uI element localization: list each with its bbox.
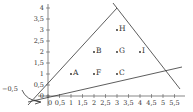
point-A (70, 73, 72, 75)
svg-text:H: H (119, 24, 126, 33)
svg-text:5,5: 5,5 (169, 99, 179, 107)
base-line (28, 67, 182, 102)
coordinate-diagram: 0 0,5 1 1,5 2 2,5 3 3,5 4 −0,5 0 0,5 1 1… (0, 0, 193, 112)
points (70, 29, 141, 75)
point-F (93, 73, 95, 75)
svg-text:3: 3 (115, 99, 119, 107)
svg-text:I: I (142, 46, 145, 55)
svg-text:F: F (96, 68, 101, 77)
svg-text:1,5: 1,5 (34, 59, 44, 67)
svg-text:2,5: 2,5 (100, 99, 110, 107)
svg-text:B: B (96, 46, 102, 55)
svg-text:0,5: 0,5 (34, 81, 44, 89)
point-I (139, 51, 141, 53)
triangle (22, 3, 182, 105)
neg-label: −0,5 (2, 85, 18, 93)
svg-text:3: 3 (40, 26, 44, 34)
svg-text:3,5: 3,5 (123, 99, 133, 107)
point-B (93, 51, 95, 53)
svg-text:C: C (119, 68, 125, 77)
svg-text:1,5: 1,5 (77, 99, 87, 107)
svg-text:4: 4 (138, 99, 142, 107)
svg-text:0,5: 0,5 (55, 99, 65, 107)
svg-text:4,5: 4,5 (146, 99, 156, 107)
svg-text:0: 0 (48, 99, 52, 107)
y-tick-labels: 0 0,5 1 1,5 2 2,5 3 3,5 4 −0,5 (2, 4, 44, 100)
svg-text:4: 4 (40, 4, 44, 12)
point-C (116, 73, 118, 75)
svg-text:G: G (119, 46, 125, 55)
point-H (116, 29, 118, 31)
svg-text:1: 1 (40, 70, 44, 78)
svg-text:2: 2 (92, 99, 96, 107)
arrowhead (34, 100, 41, 104)
svg-text:A: A (72, 68, 79, 77)
svg-text:5: 5 (161, 99, 165, 107)
svg-text:2,5: 2,5 (34, 37, 44, 45)
point-G (116, 51, 118, 53)
point-labels: A F C B G I H (72, 24, 145, 77)
svg-text:2: 2 (40, 48, 44, 56)
svg-text:1: 1 (69, 99, 73, 107)
x-tick-labels: 0 0,5 1 1,5 2 2,5 3 3,5 4 4,5 5 5,5 (48, 99, 180, 107)
svg-text:3,5: 3,5 (34, 15, 44, 23)
